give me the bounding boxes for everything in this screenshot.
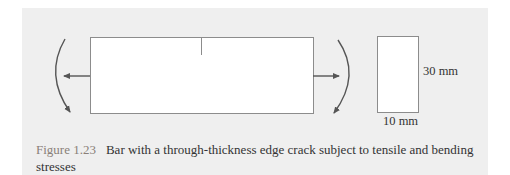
- height-dimension-label: 30 mm: [423, 64, 458, 79]
- figure-number: Figure 1.23: [36, 142, 96, 157]
- figure-caption: Figure 1.23Bar with a through-thickness …: [36, 141, 476, 175]
- width-dimension-label: 10 mm: [383, 114, 418, 129]
- caption-text: Bar with a through-thickness edge crack …: [36, 142, 473, 174]
- cross-section-outline: [378, 37, 419, 113]
